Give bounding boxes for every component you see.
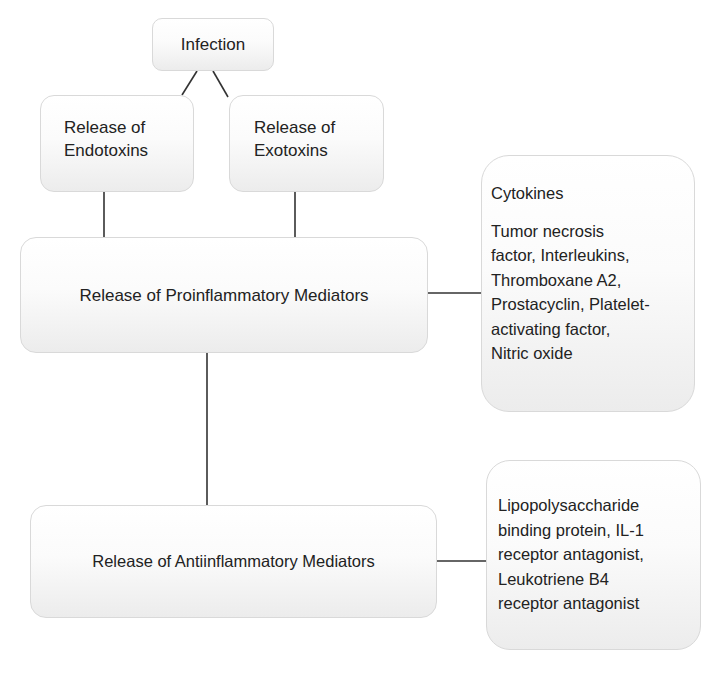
node-antiinflammatory-label: Release of Antiinflammatory Mediators [92,550,374,573]
cytokines-line: Thromboxane A2, [491,268,650,293]
cytokines-line: Tumor necrosis [491,219,650,244]
connector-infection-exotoxins [213,71,228,97]
anti-mediators-line: Leukotriene B4 [498,567,644,592]
node-proinflammatory-label: Release of Proinflammatory Mediators [79,284,368,307]
anti-mediators-line: receptor antagonist [498,591,644,616]
node-endotoxins-line1: Release of [64,116,148,139]
cytokines-line: activating factor, [491,317,650,342]
anti-mediators-line: receptor antagonist, [498,542,644,567]
node-infection-label: Infection [181,33,245,56]
cytokines-line: factor, Interleukins, [491,243,650,268]
connector-infection-endotoxins [182,71,197,95]
node-infection: Infection [152,18,274,71]
cytokines-line: Nitric oxide [491,341,650,366]
cytokines-line: Prostacyclin, Platelet- [491,292,650,317]
anti-mediators-line: binding protein, IL-1 [498,518,644,543]
node-proinflammatory: Release of Proinflammatory Mediators [20,237,428,353]
node-exotoxins: Release of Exotoxins [229,95,384,192]
node-antiinflammatory: Release of Antiinflammatory Mediators [30,505,437,618]
anti-mediators-line: Lipopolysaccharide [498,493,644,518]
node-cytokines: Cytokines Tumor necrosis factor, Interle… [481,155,695,412]
node-anti-mediators: Lipopolysaccharide binding protein, IL-1… [486,460,701,650]
node-exotoxins-line1: Release of [254,116,335,139]
cytokines-heading: Cytokines [491,181,650,206]
node-endotoxins-line2: Endotoxins [64,139,148,162]
node-endotoxins: Release of Endotoxins [40,95,194,192]
node-exotoxins-line2: Exotoxins [254,139,335,162]
